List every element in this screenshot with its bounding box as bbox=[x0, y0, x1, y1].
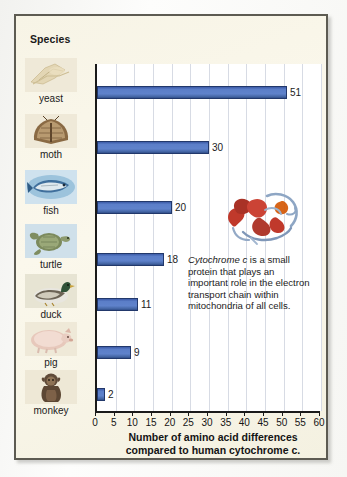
x-axis-title-line-2: compared to human cytochrome c. bbox=[95, 444, 331, 457]
x-tick-label: 45 bbox=[257, 417, 268, 428]
turtle-photo-icon bbox=[25, 224, 77, 258]
annotation-line-1: Cytochrome c is a small bbox=[188, 254, 324, 266]
x-axis-title-line-1: Number of amino acid differences bbox=[95, 431, 331, 444]
bar-value-moth: 30 bbox=[212, 141, 223, 154]
species-cell-moth: moth bbox=[22, 114, 80, 160]
duck-photo-icon bbox=[25, 274, 77, 308]
pig-photo-icon bbox=[25, 322, 77, 356]
x-tick-label: 25 bbox=[183, 417, 194, 428]
x-tick bbox=[319, 411, 320, 416]
x-tick-label: 15 bbox=[145, 417, 156, 428]
x-tick bbox=[263, 411, 264, 416]
annotation-italic-term: Cytochrome c bbox=[188, 254, 247, 265]
x-tick-label: 60 bbox=[313, 417, 324, 428]
species-label: fish bbox=[22, 205, 80, 216]
gridline bbox=[190, 64, 191, 411]
bar-pig[interactable] bbox=[97, 346, 131, 359]
bar-turtle[interactable] bbox=[97, 253, 164, 266]
annotation-line-1-rest: is a small bbox=[247, 254, 290, 265]
bar-monkey[interactable] bbox=[97, 388, 105, 401]
gridline bbox=[321, 64, 322, 411]
x-tick-label: 40 bbox=[239, 417, 250, 428]
bar-moth[interactable] bbox=[97, 141, 209, 154]
species-label: moth bbox=[22, 149, 80, 160]
bar-value-pig: 9 bbox=[134, 346, 140, 359]
bar-duck[interactable] bbox=[97, 298, 138, 311]
x-tick bbox=[170, 411, 171, 416]
species-cell-pig: pig bbox=[22, 322, 80, 368]
species-cell-fish: fish bbox=[22, 170, 80, 216]
bar-fish[interactable] bbox=[97, 201, 172, 214]
x-tick-label: 55 bbox=[295, 417, 306, 428]
species-label: monkey bbox=[22, 405, 80, 416]
x-tick bbox=[114, 411, 115, 416]
species-label: turtle bbox=[22, 259, 80, 270]
x-tick bbox=[207, 411, 208, 416]
x-tick bbox=[188, 411, 189, 416]
x-tick-label: 0 bbox=[92, 417, 98, 428]
gridline bbox=[209, 64, 210, 411]
x-tick-label: 50 bbox=[276, 417, 287, 428]
monkey-photo-icon bbox=[25, 370, 77, 404]
bar-value-duck: 11 bbox=[141, 298, 151, 311]
species-cell-yeast: yeast bbox=[22, 58, 80, 104]
x-tick bbox=[282, 411, 283, 416]
x-tick-label: 35 bbox=[220, 417, 231, 428]
x-tick-label: 5 bbox=[111, 417, 117, 428]
species-label: yeast bbox=[22, 93, 80, 104]
species-column: Species yeast bbox=[22, 20, 80, 458]
annotation-text: Cytochrome c is a small protein that pla… bbox=[188, 254, 324, 312]
bar-yeast[interactable] bbox=[97, 86, 287, 99]
fish-photo-icon bbox=[25, 170, 77, 204]
species-cell-duck: duck bbox=[22, 274, 80, 320]
cytochrome-c-structure-icon bbox=[221, 188, 309, 250]
species-cell-monkey: monkey bbox=[22, 370, 80, 416]
x-tick bbox=[244, 411, 245, 416]
x-tick bbox=[300, 411, 301, 416]
yeast-photo-icon bbox=[25, 58, 77, 92]
species-column-header: Species bbox=[30, 33, 70, 45]
x-tick-label: 30 bbox=[201, 417, 212, 428]
bar-value-monkey: 2 bbox=[108, 388, 114, 401]
figure-panel: Species yeast bbox=[14, 14, 328, 460]
species-label: duck bbox=[22, 309, 80, 320]
x-tick bbox=[151, 411, 152, 416]
x-tick bbox=[226, 411, 227, 416]
x-tick-label: 10 bbox=[127, 417, 138, 428]
species-label: pig bbox=[22, 357, 80, 368]
annotation-line-4: transport chain within bbox=[188, 289, 324, 301]
x-tick bbox=[132, 411, 133, 416]
annotation-line-3: important role in the electron bbox=[188, 277, 324, 289]
x-axis: 0 5 10 15 20 25 30 35 40 45 50 55 60 bbox=[95, 411, 320, 413]
moth-photo-icon bbox=[25, 114, 77, 148]
annotation-line-2: protein that plays an bbox=[188, 266, 324, 278]
x-axis-title: Number of amino acid differences compare… bbox=[95, 431, 331, 456]
bar-value-turtle: 18 bbox=[167, 253, 178, 266]
x-tick bbox=[95, 411, 96, 416]
annotation-line-5: mitochondria of all cells. bbox=[188, 300, 324, 312]
x-tick-label: 20 bbox=[164, 417, 175, 428]
gridline bbox=[153, 64, 154, 411]
species-cell-turtle: turtle bbox=[22, 224, 80, 270]
bar-value-fish: 20 bbox=[175, 201, 186, 214]
gridline bbox=[172, 64, 173, 411]
bar-value-yeast: 51 bbox=[290, 86, 301, 99]
